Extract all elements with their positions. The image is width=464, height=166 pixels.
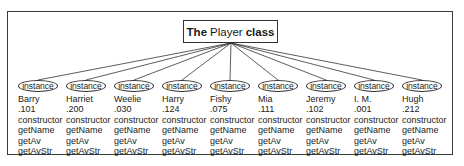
method-getname: getName: [162, 125, 210, 135]
instance-card: instance Harriet .200 constructor getNam…: [66, 80, 114, 156]
method-getav: getAv: [402, 136, 450, 146]
method-constructor: constructor: [210, 115, 258, 125]
method-getname: getName: [18, 125, 66, 135]
method-constructor: constructor: [66, 115, 114, 125]
instance-name: Harriet: [66, 94, 114, 104]
instance-name: Hugh: [402, 94, 450, 104]
instance-average: .001: [354, 104, 402, 114]
instance-oval: instance: [66, 80, 106, 92]
instance-average: .075: [210, 104, 258, 114]
method-getname: getName: [306, 125, 354, 135]
method-constructor: constructor: [162, 115, 210, 125]
method-getav: getAv: [162, 136, 210, 146]
instance-average: .200: [66, 104, 114, 114]
method-constructor: constructor: [114, 115, 162, 125]
method-getavstr: getAvStr: [402, 146, 450, 156]
instance-oval: instance: [306, 80, 346, 92]
instance-oval: instance: [210, 80, 250, 92]
method-getavstr: getAvStr: [210, 146, 258, 156]
method-constructor: constructor: [354, 115, 402, 125]
instance-average: .101: [18, 104, 66, 114]
method-getavstr: getAvStr: [258, 146, 306, 156]
method-getav: getAv: [210, 136, 258, 146]
instance-oval: instance: [258, 80, 298, 92]
method-getname: getName: [210, 125, 258, 135]
method-getav: getAv: [354, 136, 402, 146]
instance-name: Mia: [258, 94, 306, 104]
method-constructor: constructor: [402, 115, 450, 125]
instance-name: Weelie: [114, 94, 162, 104]
instance-card: instance Barry .101 constructor getName …: [18, 80, 66, 156]
instance-name: Jeremy: [306, 94, 354, 104]
instance-card: instance Mia .111 constructor getName ge…: [258, 80, 306, 156]
method-getav: getAv: [306, 136, 354, 146]
method-getname: getName: [66, 125, 114, 135]
method-getname: getName: [354, 125, 402, 135]
method-constructor: constructor: [258, 115, 306, 125]
method-getav: getAv: [18, 136, 66, 146]
instance-oval: instance: [114, 80, 154, 92]
instance-name: Barry: [18, 94, 66, 104]
method-getavstr: getAvStr: [114, 146, 162, 156]
method-getavstr: getAvStr: [354, 146, 402, 156]
instance-name: Harry: [162, 94, 210, 104]
instance-oval: instance: [162, 80, 202, 92]
title-suffix: class: [246, 26, 275, 38]
title-class-name: Player: [210, 26, 243, 38]
instance-card: instance Weelie .030 constructor getName…: [114, 80, 162, 156]
method-getavstr: getAvStr: [306, 146, 354, 156]
instance-card: instance Fishy .075 constructor getName …: [210, 80, 258, 156]
instance-card: instance I. M. .001 constructor getName …: [354, 80, 402, 156]
method-getav: getAv: [66, 136, 114, 146]
title-prefix: The: [187, 26, 207, 38]
player-class-title: The Player class: [183, 20, 278, 43]
method-getav: getAv: [114, 136, 162, 146]
instance-card: instance Hugh .212 constructor getName g…: [402, 80, 450, 156]
instance-card: instance Harry .124 constructor getName …: [162, 80, 210, 156]
method-getav: getAv: [258, 136, 306, 146]
method-getname: getName: [402, 125, 450, 135]
method-getavstr: getAvStr: [162, 146, 210, 156]
instance-average: .102: [306, 104, 354, 114]
instance-name: I. M.: [354, 94, 402, 104]
method-getavstr: getAvStr: [66, 146, 114, 156]
instance-oval: instance: [354, 80, 394, 92]
instance-oval: instance: [18, 80, 58, 92]
instance-average: .212: [402, 104, 450, 114]
method-constructor: constructor: [306, 115, 354, 125]
instance-name: Fishy: [210, 94, 258, 104]
instance-card: instance Jeremy .102 constructor getName…: [306, 80, 354, 156]
method-getname: getName: [114, 125, 162, 135]
instance-average: .124: [162, 104, 210, 114]
method-getname: getName: [258, 125, 306, 135]
method-constructor: constructor: [18, 115, 66, 125]
instance-average: .030: [114, 104, 162, 114]
instance-average: .111: [258, 104, 306, 114]
instance-oval: instance: [402, 80, 442, 92]
method-getavstr: getAvStr: [18, 146, 66, 156]
